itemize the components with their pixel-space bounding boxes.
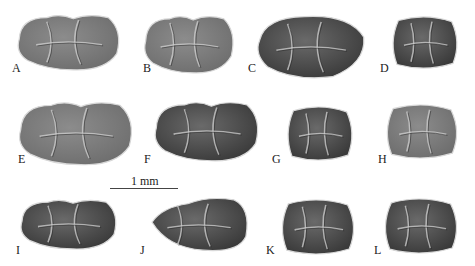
scale-bar-label: 1 mm: [131, 175, 159, 187]
teeth-layer: [0, 0, 475, 266]
tooth-specimen-c: [258, 16, 364, 77]
tooth-specimen-j: [152, 198, 247, 250]
panel-label-f: F: [144, 153, 151, 165]
panel-label-a: A: [12, 62, 21, 74]
scale-bar: [110, 188, 178, 189]
tooth-specimen-k: [282, 200, 353, 254]
tooth-specimen-h: [387, 105, 456, 158]
panel-label-b: B: [143, 62, 151, 74]
tooth-specimen-d: [393, 17, 457, 68]
tooth-specimen-a: [18, 16, 118, 70]
panel-label-i: I: [16, 244, 20, 256]
panel-label-k: K: [266, 244, 275, 256]
tooth-specimen-l: [385, 199, 456, 253]
specimen-figure: ABCDEFGHIJKL1 mm: [0, 0, 475, 266]
tooth-specimen-e: [20, 103, 132, 165]
panel-label-l: L: [374, 244, 381, 256]
panel-label-d: D: [380, 62, 389, 74]
panel-label-c: C: [248, 62, 256, 74]
tooth-specimen-g: [288, 107, 352, 160]
tooth-specimen-b: [145, 17, 233, 73]
panel-label-e: E: [18, 153, 25, 165]
panel-label-g: G: [272, 153, 281, 165]
panel-label-j: J: [140, 244, 145, 256]
panel-label-h: H: [378, 153, 387, 165]
tooth-specimen-f: [155, 103, 257, 161]
tooth-specimen-i: [21, 200, 116, 249]
